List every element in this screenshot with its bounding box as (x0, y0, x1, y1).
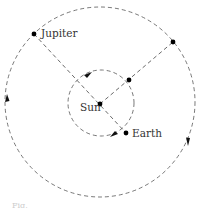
jupiter-dot (32, 32, 37, 37)
line-sun-later (100, 42, 173, 104)
orbit-diagram: Jupiter Sun Earth Fig. (0, 0, 200, 208)
arrow-icon (186, 138, 190, 147)
sun-label: Sun (80, 101, 101, 113)
jupiter-label: Jupiter (40, 27, 78, 39)
earth-later-dot (127, 78, 132, 83)
jupiter-later-dot (171, 40, 176, 45)
earth-dot (124, 131, 129, 136)
arrow-icon (5, 94, 10, 102)
earth-label: Earth (132, 127, 162, 139)
line-jupiter-earth (34, 34, 126, 133)
figure-caption: Fig. (12, 201, 28, 208)
